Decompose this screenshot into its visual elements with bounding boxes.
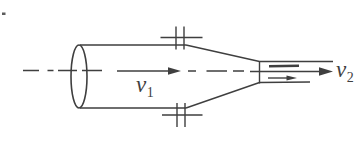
flange-top [161, 27, 203, 50]
inner-flow-arrowhead-icon [287, 75, 298, 80]
v2-label: v2 [336, 58, 354, 81]
v1-label-subscript: 1 [147, 85, 154, 100]
v1-flow-arrowhead-icon [168, 67, 181, 74]
converging-cone [186, 45, 260, 108]
v2-label-base: v [336, 57, 346, 82]
flange-bottom [162, 103, 203, 127]
v1-label: v1 [136, 73, 154, 96]
cylinder-body [80, 45, 186, 108]
v2-label-subscript: 2 [347, 70, 354, 85]
v1-label-base: v [136, 72, 146, 97]
v2-flow-arrowhead-icon [319, 67, 333, 76]
nozzle-diagram-linework [0, 0, 364, 167]
scan-artifact-speck [2, 13, 6, 16]
exit-tube-bottom-wall [260, 82, 311, 83]
inlet-end-ellipse [71, 45, 87, 108]
nozzle-flow-diagram: v1 v2 [0, 0, 364, 167]
